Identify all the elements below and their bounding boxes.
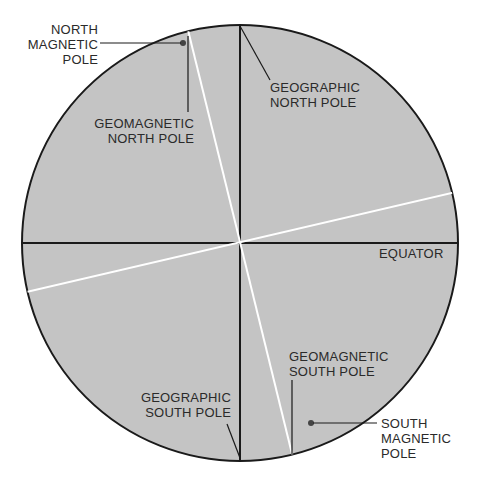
geomagnetic-south-pole-label: GEOMAGNETIC SOUTH POLE [289, 349, 389, 379]
geomagnetic-north-pole-label: GEOMAGNETIC NORTH POLE [76, 116, 194, 146]
north-magnetic-pole-label: NORTH MAGNETIC POLE [14, 22, 98, 67]
equator-label: EQUATOR [379, 246, 443, 261]
globe-diagram [0, 0, 479, 486]
geographic-south-pole-label: GEOGRAPHIC SOUTH POLE [120, 390, 231, 420]
south-magnetic-pole-label: SOUTH MAGNETIC POLE [381, 416, 451, 461]
geographic-north-pole-label: GEOGRAPHIC NORTH POLE [270, 80, 360, 110]
